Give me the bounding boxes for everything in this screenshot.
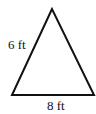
triangle [12, 9, 94, 95]
base-length-label: 8 ft [47, 99, 65, 112]
side-length-label: 6 ft [8, 38, 26, 51]
triangle-figure [0, 0, 96, 114]
